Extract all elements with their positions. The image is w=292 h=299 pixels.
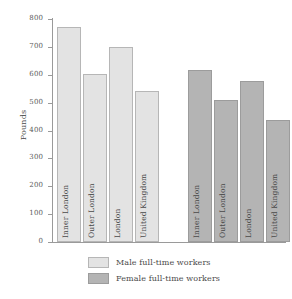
y-tick-label: 600 [29, 70, 43, 78]
y-tick-label: 700 [29, 42, 43, 50]
legend-swatch-male-icon [88, 257, 109, 268]
plot-area: Inner LondonOuter LondonLondonUnited Kin… [52, 19, 287, 242]
bar: London [240, 81, 264, 242]
bar-category-label: Outer London [88, 183, 96, 238]
legend-swatch-female-icon [88, 273, 109, 284]
bar: United Kingdom [266, 120, 290, 242]
y-tick-label: 300 [29, 153, 43, 161]
y-tick-label: 200 [29, 181, 43, 189]
bar-category-label: Outer London [219, 183, 227, 238]
bar: Inner London [57, 27, 81, 242]
bar: United Kingdom [135, 91, 159, 242]
bar-chart: Pounds 0100200300400500600700800 Inner L… [0, 0, 292, 299]
legend-label-male: Male full-time workers [116, 258, 211, 268]
y-tick-label: 800 [29, 14, 43, 22]
bar: Inner London [188, 70, 212, 242]
bar: London [109, 47, 133, 242]
y-tick-label: 100 [29, 209, 43, 217]
legend-label-female: Female full-time workers [116, 274, 220, 284]
y-axis-title-label: Pounds [19, 110, 28, 141]
x-axis-line [52, 242, 286, 243]
bar-category-label: London [114, 209, 122, 238]
bar-category-label: Inner London [193, 185, 201, 238]
bar: Outer London [83, 74, 107, 242]
y-tick-label: 500 [29, 98, 43, 106]
legend-item-male: Male full-time workers [88, 256, 258, 269]
bar-category-label: London [245, 209, 253, 238]
y-tick-label: 400 [29, 126, 43, 134]
bar-category-label: United Kingdom [140, 174, 148, 238]
y-axis-title: Pounds [3, 95, 17, 155]
bar-category-label: Inner London [62, 185, 70, 238]
legend-item-female: Female full-time workers [88, 272, 258, 285]
chart-legend: Male full-time workers Female full-time … [88, 256, 258, 288]
bar-category-label: United Kingdom [271, 174, 279, 238]
bar: Outer London [214, 100, 238, 242]
y-tick-mark [48, 242, 52, 243]
y-tick-label: 0 [38, 237, 43, 245]
